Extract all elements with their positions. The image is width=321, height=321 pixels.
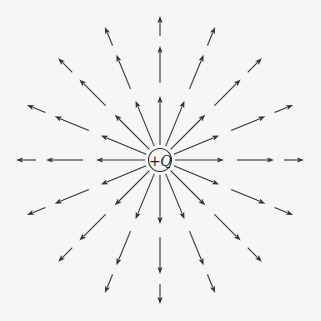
field-line — [174, 105, 293, 154]
arrowhead-icon — [157, 267, 162, 274]
arrowhead-icon — [157, 217, 162, 224]
charge-symbol: Q — [160, 153, 171, 169]
arrowhead-icon — [16, 157, 23, 162]
field-line-segment — [33, 107, 46, 112]
field-line-segment — [84, 214, 106, 236]
field-line-segment — [207, 275, 212, 288]
field-line-segment — [107, 33, 112, 46]
field-line-segment — [189, 60, 201, 89]
field-line-segment — [214, 214, 236, 236]
arrowhead-icon — [46, 157, 53, 162]
field-line — [16, 157, 145, 162]
field-line — [166, 174, 215, 293]
field-line — [175, 157, 304, 162]
field-line-segment — [60, 189, 89, 201]
arrowhead-icon — [157, 297, 162, 304]
charge-label: +Q — [149, 153, 171, 169]
field-line-segment — [62, 248, 72, 258]
field-line-segment — [231, 119, 260, 131]
field-line-segment — [62, 62, 72, 72]
field-line — [166, 27, 215, 146]
field-line-segment — [189, 231, 201, 260]
field-line-segment — [248, 62, 258, 72]
field-line — [105, 174, 154, 293]
field-line-segment — [214, 84, 236, 106]
field-line — [157, 16, 162, 145]
field-line-segment — [119, 60, 131, 89]
arrowhead-icon — [267, 157, 274, 162]
field-line-segment — [119, 231, 131, 260]
field-line-segment — [231, 189, 260, 201]
field-line-segment — [107, 275, 112, 288]
arrowhead-icon — [96, 157, 103, 162]
field-line — [157, 175, 162, 304]
field-line-segment — [275, 207, 288, 212]
arrowhead-icon — [157, 46, 162, 53]
field-line-segment — [248, 248, 258, 258]
arrowhead-icon — [157, 16, 162, 23]
field-line — [27, 166, 146, 215]
arrowhead-icon — [157, 96, 162, 103]
field-line — [105, 27, 154, 146]
arrowhead-icon — [217, 157, 224, 162]
field-line-segment — [275, 107, 288, 112]
field-line-segment — [207, 33, 212, 46]
field-line — [174, 166, 293, 215]
field-line-segment — [60, 119, 89, 131]
charge-sign: + — [149, 153, 160, 169]
field-line — [27, 105, 146, 154]
field-line-segment — [84, 84, 106, 106]
diagram-canvas: +Q — [0, 0, 321, 321]
arrowhead-icon — [297, 157, 304, 162]
field-line-segment — [33, 207, 46, 212]
